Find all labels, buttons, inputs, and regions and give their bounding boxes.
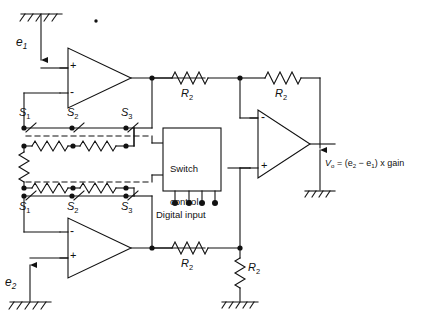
stray-dot (94, 19, 97, 22)
dot-top-sw-s1 (21, 125, 26, 130)
resistor-label-r2-bottom-left: R2 (181, 258, 193, 271)
vo-minus: − e (356, 158, 371, 168)
e1-subscript: 1 (23, 42, 28, 51)
switch-label-bottom-s1: S1 (19, 201, 31, 214)
r2-bottom-left-resistor (152, 242, 240, 254)
switch-control-line1: Switch (170, 164, 199, 175)
switch-label-bottom-s2: S2 (67, 201, 79, 214)
node-bottom-opamp-out (149, 245, 154, 250)
ground-e2-bottom (9, 302, 51, 309)
dot-bot-sw-s3 (123, 193, 128, 198)
dot-bot-ladder-l (21, 185, 26, 190)
node-top-mid (237, 75, 242, 80)
circuit-diagram: e1 e2 + - - + - + S1 S2 S3 S1 S2 S3 Swit… (0, 0, 421, 324)
dot-bot-sw-s2 (69, 193, 74, 198)
ladder-bottom-row (24, 183, 134, 196)
top-opamp-plus-label: + (70, 60, 76, 71)
dot-bot-ladder-m (70, 185, 75, 190)
switch-label-top-s3: S3 (121, 107, 133, 120)
e2-symbol: e (5, 275, 12, 289)
digital-input-label: Digital input (156, 209, 206, 220)
dot-top-sw-s2 (69, 125, 74, 130)
resistor-label-r2-top-right: R2 (275, 88, 287, 101)
resistor-label-r2-bottom-right: R2 (248, 262, 260, 275)
bottom-opamp-plus-label: + (70, 250, 76, 261)
bottom-opamp-minus-label: - (70, 225, 74, 237)
dot-top-ladder-m (70, 143, 75, 148)
vo-eq-part1: = (e (334, 158, 352, 168)
e2-subscript: 2 (12, 282, 17, 291)
dot-bot-sw-s1 (21, 193, 26, 198)
resistor-label-r2-top-left: R2 (181, 88, 193, 101)
switch-control-line2: control (170, 197, 199, 208)
switch-label-top-s2: S2 (67, 107, 79, 120)
dot-top-sw-s3 (123, 125, 128, 130)
r2-top-left-resistor (152, 72, 240, 84)
dot-bot-ladder-r (123, 185, 128, 190)
dot-top-ladder-l (21, 143, 26, 148)
ground-output (305, 191, 335, 197)
r2-top-right-resistor (240, 72, 320, 84)
output-opamp-minus-label: - (261, 111, 265, 123)
e1-symbol: e (16, 35, 23, 49)
switch-label-bottom-s3: S3 (121, 201, 133, 214)
top-opamp-minus-label: - (70, 86, 74, 98)
vo-eq-part2: ) x gain (375, 158, 405, 168)
switch-label-top-s1: S1 (19, 107, 31, 120)
r2-bottom-right-resistor (235, 248, 245, 301)
ladder-top-row (24, 128, 134, 151)
top-opamp-body (68, 48, 131, 108)
bottom-opamp-body (68, 218, 131, 278)
digital-input-dot-4 (212, 200, 218, 206)
node-top-opamp-out (149, 75, 154, 80)
input-label-e2: e2 (5, 276, 16, 291)
ground-r2-bottom (222, 302, 258, 308)
input-label-e1: e1 (16, 36, 27, 51)
digital-input-dot-3 (199, 200, 205, 206)
dot-top-ladder-r (123, 143, 128, 148)
node-bottom-mid (237, 245, 242, 250)
output-opamp-plus-label: + (261, 160, 267, 171)
output-equation: Vo = (e2 − e1) x gain (325, 158, 404, 169)
